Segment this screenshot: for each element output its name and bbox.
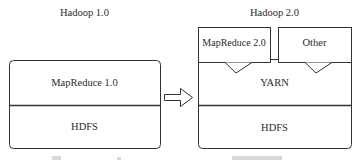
- yarn-layer-label: YARN: [198, 77, 351, 88]
- mapreduce1-layer-label: MapReduce 1.0: [9, 77, 160, 88]
- hadoop1-stack: [10, 61, 161, 149]
- hadoop1-title: Hadoop 1.0: [9, 7, 160, 18]
- other-module-label: Other: [278, 37, 351, 48]
- hdfs2-layer-label: HDFS: [198, 122, 351, 133]
- transition-arrow-icon: [165, 89, 193, 107]
- hadoop2-title: Hadoop 2.0: [198, 7, 351, 18]
- mapreduce2-module-label: MapReduce 2.0: [198, 37, 270, 48]
- cropped-caption-marks: [52, 156, 282, 160]
- mapreduce2-notch-icon: [225, 63, 252, 74]
- other-notch-icon: [305, 63, 332, 74]
- hadoop1-outer-box: [10, 61, 161, 149]
- hdfs1-layer-label: HDFS: [9, 121, 160, 132]
